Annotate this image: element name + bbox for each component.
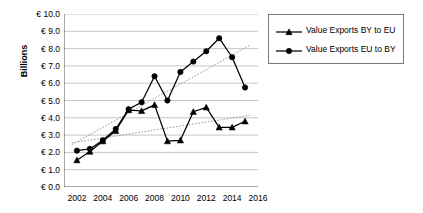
x-axis-tick-label: 2014 — [223, 194, 242, 203]
gridlines — [64, 14, 258, 187]
x-axis-tick-label: 2016 — [249, 194, 268, 203]
series-marker — [151, 102, 157, 108]
x-axis-tick-label: 2008 — [145, 194, 164, 203]
x-axis-tick-label: 2010 — [171, 194, 190, 203]
series-marker — [242, 85, 247, 90]
series-marker — [126, 106, 131, 111]
chart-legend: Value Exports BY to EUValue Exports EU t… — [268, 14, 404, 64]
legend-item[interactable]: Value Exports BY to EU — [274, 20, 396, 39]
legend-item-label: Value Exports EU to BY — [304, 44, 396, 54]
legend-triangle-marker-icon — [274, 24, 304, 36]
series-marker — [139, 100, 144, 105]
x-axis-tick-label: 2004 — [93, 194, 112, 203]
trendline — [72, 115, 250, 143]
series-marker — [165, 98, 170, 103]
series-line — [77, 38, 245, 150]
series-marker — [152, 74, 157, 79]
series-marker — [100, 138, 105, 143]
legend-key-graphic — [274, 45, 304, 57]
series-marker — [229, 55, 234, 60]
legend-key-graphic — [274, 26, 304, 38]
legend-key-marker — [286, 48, 291, 53]
series-line — [77, 105, 245, 160]
series-marker — [191, 59, 196, 64]
trendline — [72, 45, 250, 144]
x-axis-tick-label: 2002 — [67, 194, 86, 203]
series-marker — [242, 118, 248, 124]
data-series — [74, 102, 248, 163]
trendlines — [72, 45, 250, 144]
chart-canvas — [64, 14, 258, 187]
chart-figure: Billions € 0.0€ 1.0€ 2.0€ 3.0€ 4.0€ 5.0€… — [0, 0, 423, 213]
series-marker — [203, 104, 209, 110]
series-marker — [217, 36, 222, 41]
plot-area — [64, 14, 258, 187]
series-marker — [74, 157, 80, 163]
series-marker — [74, 148, 79, 153]
legend-circle-marker-icon — [274, 43, 304, 55]
series-marker — [178, 69, 183, 74]
x-axis-tick-label: 2006 — [119, 194, 138, 203]
series-marker — [87, 146, 92, 151]
data-series — [74, 36, 248, 154]
legend-item-label: Value Exports BY to EU — [304, 25, 395, 35]
legend-item[interactable]: Value Exports EU to BY — [274, 39, 396, 58]
x-axis-tick-label: 2012 — [197, 194, 216, 203]
series-marker — [204, 48, 209, 53]
series-marker — [113, 126, 118, 131]
